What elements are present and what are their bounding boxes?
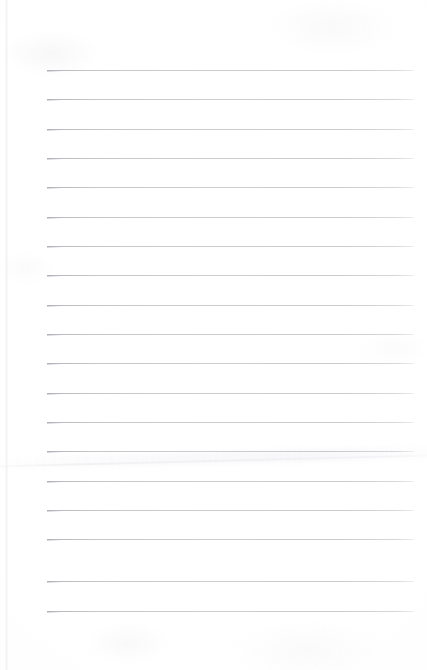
notebook-page bbox=[0, 0, 427, 670]
writing-area[interactable] bbox=[47, 56, 414, 626]
